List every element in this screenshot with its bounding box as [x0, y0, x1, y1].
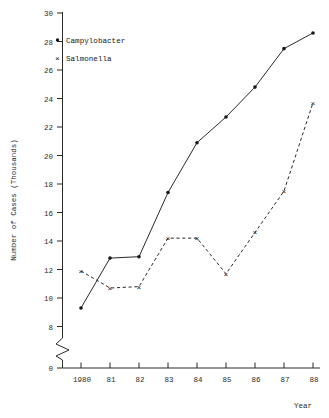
x-axis-ticks [81, 363, 313, 369]
line-chart-plot: 30 28 26 24 22 20 18 16 14 12 10 8 0 [0, 0, 329, 418]
legend-marker-x-icon: × [55, 54, 60, 63]
data-point-marker [108, 256, 112, 260]
data-point-marker: × [311, 99, 316, 108]
legend-label-campylobacter: Campylobacter [66, 37, 125, 45]
data-point-marker: × [253, 228, 258, 237]
data-point-marker: × [166, 234, 171, 243]
data-point-marker: × [79, 267, 84, 276]
data-point-marker: × [282, 187, 287, 196]
x-tick-label: 86 [251, 376, 261, 384]
y-tick-label: 8 [48, 324, 53, 332]
x-tick-label: 84 [193, 376, 203, 384]
data-point-marker [253, 85, 257, 89]
data-point-marker [166, 191, 170, 195]
data-point-marker: × [195, 234, 200, 243]
data-point-marker [137, 255, 141, 259]
data-point-marker [79, 306, 83, 310]
x-tick-label: 87 [280, 376, 289, 384]
legend: Campylobacter × Salmonella [55, 37, 125, 63]
y-tick-label: 14 [44, 238, 54, 246]
y-tick-label: 0 [48, 365, 53, 373]
y-tick-label: 12 [44, 267, 53, 275]
x-axis-tick-labels: 1980 81 82 83 84 85 86 87 88 [73, 376, 319, 384]
y-tick-label: 22 [44, 124, 53, 132]
y-tick-label: 26 [44, 67, 54, 75]
y-axis-ticks [57, 13, 63, 368]
data-point-marker: × [108, 284, 113, 293]
x-tick-label: 81 [106, 376, 116, 384]
series-layer: ××××××××× [79, 31, 316, 310]
series-line-campylobacter [81, 33, 313, 308]
y-tick-label: 10 [44, 295, 54, 303]
y-tick-label: 20 [44, 153, 54, 161]
y-tick-label: 18 [44, 181, 53, 189]
x-tick-label: 88 [309, 376, 318, 384]
y-tick-label: 24 [44, 96, 54, 104]
data-point-marker: × [224, 270, 229, 279]
x-tick-label: 82 [135, 376, 144, 384]
data-point-marker [282, 47, 286, 51]
series-line-salmonella [81, 103, 313, 288]
data-point-marker [224, 115, 228, 119]
x-tick-label: 85 [222, 376, 232, 384]
data-point-marker [311, 31, 315, 35]
y-axis-tick-labels: 30 28 26 24 22 20 18 16 14 12 10 8 0 [44, 10, 54, 373]
data-point-marker [195, 141, 199, 145]
legend-label-salmonella: Salmonella [66, 55, 112, 63]
x-tick-label: 1980 [73, 376, 92, 384]
y-tick-label: 28 [44, 39, 53, 47]
y-axis-title: Number of Cases (Thousands) [10, 139, 18, 261]
legend-marker-dot-icon [56, 38, 59, 41]
x-tick-label: 83 [164, 376, 174, 384]
y-axis-break-zigzag [56, 338, 69, 360]
x-axis-title: Year [294, 402, 312, 410]
data-point-marker: × [137, 283, 142, 292]
y-tick-label: 30 [44, 10, 54, 18]
chart-container: 30 28 26 24 22 20 18 16 14 12 10 8 0 [0, 0, 329, 418]
y-tick-label: 16 [44, 210, 54, 218]
